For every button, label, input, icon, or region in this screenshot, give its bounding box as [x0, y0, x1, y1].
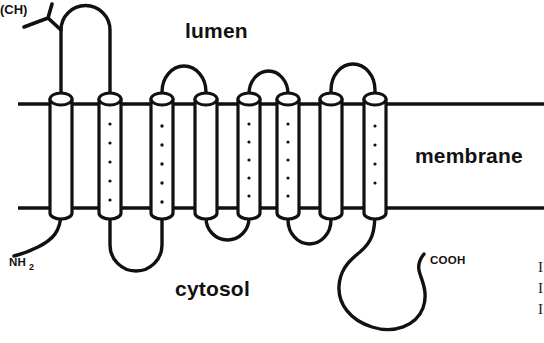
topology-svg: (CH) lumen membrane cytosol NH 2 COOH I …: [0, 0, 544, 343]
n-terminus-label: NH 2: [9, 256, 34, 272]
helix-1: [50, 93, 72, 219]
membrane-topology-figure: (CH) lumen membrane cytosol NH 2 COOH I …: [0, 0, 544, 343]
edge-fragment-3: I: [538, 301, 543, 317]
glycosylation-label: (CH): [0, 2, 27, 17]
n-terminus-text: NH: [9, 256, 26, 268]
cytosolic-loops: [110, 212, 331, 271]
transmembrane-helices: [50, 93, 386, 219]
glycosylation-bond: [24, 4, 61, 30]
lumenal-loop-1-2: [61, 6, 110, 100]
helix-8: [364, 93, 386, 219]
helix-5: [238, 93, 260, 219]
edge-fragment-2: I: [538, 280, 543, 296]
edge-text-fragments: I I I: [538, 259, 543, 317]
helix-7: [320, 93, 342, 219]
edge-fragment-1: I: [538, 259, 543, 275]
helix-6-top-cap: [277, 93, 299, 105]
helix-3-top-cap: [151, 93, 173, 105]
c-terminus-label: COOH: [430, 254, 466, 266]
helix-1-top-cap: [50, 93, 72, 105]
n-terminus-subscript: 2: [29, 262, 34, 272]
helix-7-top-cap: [320, 93, 342, 105]
helix-2: [99, 93, 121, 219]
helix-6: [277, 93, 299, 219]
membrane-label: membrane: [415, 144, 523, 167]
cytosolic-loop-2-3: [110, 212, 162, 271]
c-terminus-tail: [339, 212, 425, 330]
helix-4-top-cap: [195, 93, 217, 105]
helix-2-top-cap: [99, 93, 121, 105]
lumen-label: lumen: [185, 19, 248, 42]
helix-8-top-cap: [364, 93, 386, 105]
helix-5-top-cap: [238, 93, 260, 105]
glycosylation-marker: [24, 4, 61, 30]
cytosol-label: cytosol: [175, 277, 250, 300]
helix-4: [195, 93, 217, 219]
helix-3: [151, 93, 173, 219]
